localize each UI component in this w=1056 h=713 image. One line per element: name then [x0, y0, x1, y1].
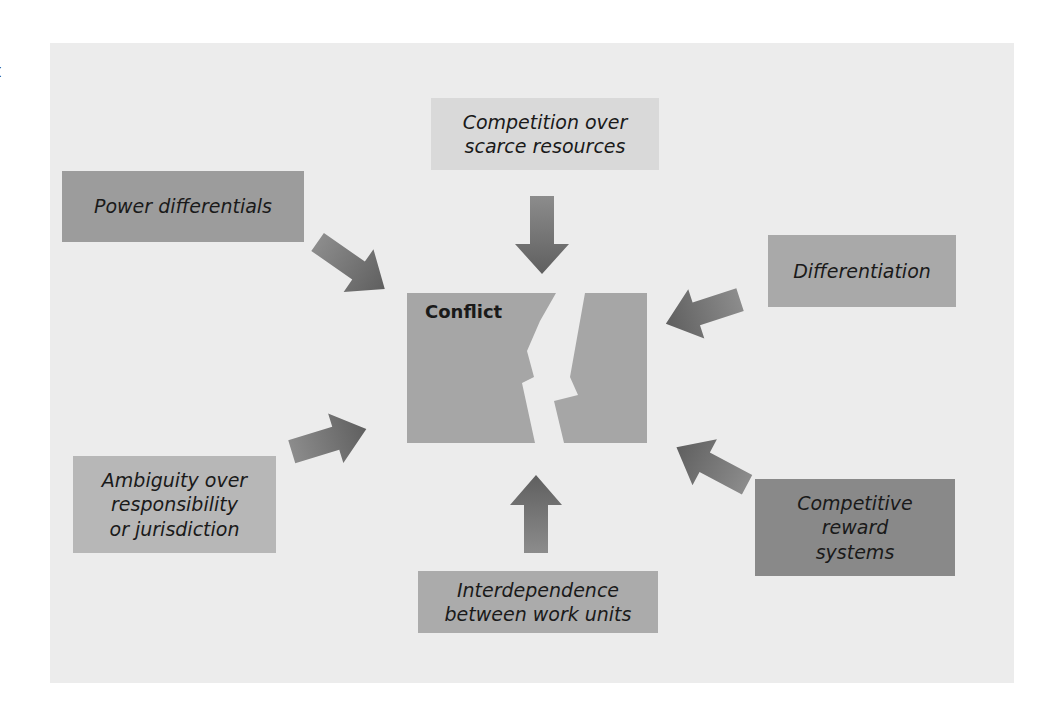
arrows-layer: [0, 0, 1056, 713]
arrow-from-reward-icon: [664, 424, 759, 507]
arrow-from-power-icon: [303, 221, 400, 311]
arrow-from-interdependence-icon: [510, 475, 562, 553]
arrow-from-ambiguity-icon: [284, 404, 374, 477]
arrow-from-competition-icon: [515, 196, 569, 274]
arrow-from-differentiation-icon: [658, 275, 748, 349]
